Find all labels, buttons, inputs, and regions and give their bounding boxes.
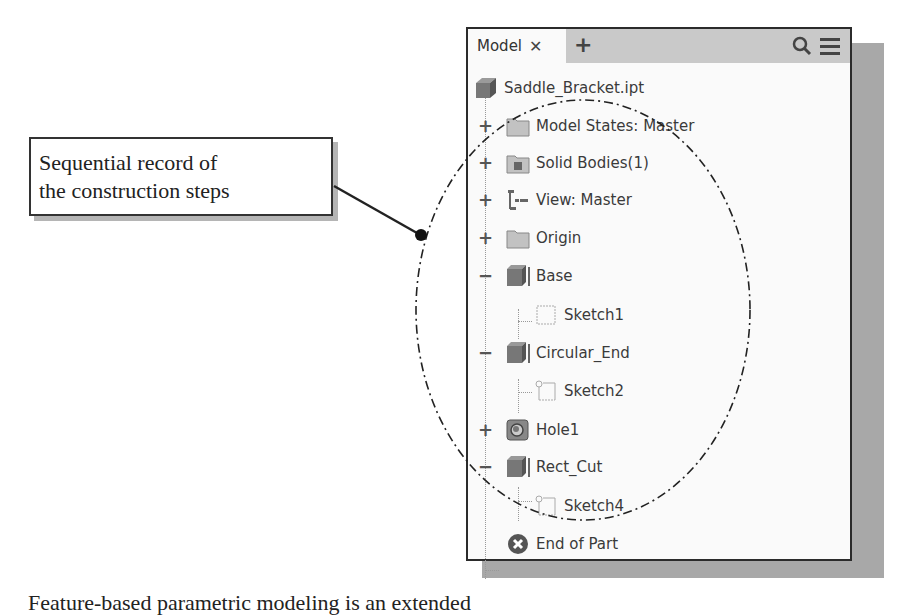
folder-icon (506, 227, 530, 249)
tree-item[interactable]: + Model States: Master (468, 111, 694, 141)
tab-model[interactable]: Model ✕ (468, 29, 566, 63)
tree-item-label: Model States: Master (536, 117, 694, 135)
collapse-icon[interactable]: − (478, 344, 492, 362)
solid-bodies-folder-icon (506, 152, 530, 174)
search-icon[interactable] (792, 36, 812, 56)
tree-item[interactable]: + Hole1 (468, 415, 579, 445)
callout-line-2: the construction steps (39, 177, 331, 205)
model-browser-panel: Model ✕ + Saddle_Bracket.ipt + Model Sta… (466, 27, 852, 561)
tree-item-label: Circular_End (536, 344, 630, 362)
tree-item-label: Solid Bodies(1) (536, 154, 649, 172)
callout-box: Sequential record of the construction st… (29, 137, 333, 216)
expand-icon[interactable]: + (478, 421, 492, 439)
tab-model-label: Model (477, 37, 522, 55)
sketch-icon (534, 380, 558, 402)
close-icon[interactable]: ✕ (529, 37, 542, 56)
hamburger-menu-icon[interactable] (820, 38, 840, 55)
hole-icon (506, 419, 530, 441)
tab-bar: Model ✕ + (468, 29, 850, 63)
tree-item-label: End of Part (536, 535, 618, 553)
part-icon (474, 77, 498, 99)
tree-item[interactable]: − Rect_Cut (468, 452, 602, 482)
tree-item-label: Hole1 (536, 421, 579, 439)
sketch-icon (534, 304, 558, 326)
expand-icon[interactable]: + (478, 154, 492, 172)
tree-item[interactable]: + Origin (468, 223, 581, 253)
tree-item[interactable]: − Circular_End (468, 338, 630, 368)
callout-line-1: Sequential record of (39, 149, 331, 177)
expand-icon[interactable]: + (478, 117, 492, 135)
expand-icon[interactable]: + (478, 191, 492, 209)
tree-item-label: Sketch4 (564, 497, 624, 515)
tree-root-label: Saddle_Bracket.ipt (504, 79, 644, 97)
tree-item[interactable]: Sketch4 (468, 491, 624, 521)
collapse-icon[interactable]: − (478, 267, 492, 285)
extrude-icon (506, 265, 530, 287)
extrude-icon (506, 342, 530, 364)
tree-item-label: View: Master (536, 191, 632, 209)
tree-item-label: Rect_Cut (536, 458, 602, 476)
expand-icon[interactable]: + (478, 229, 492, 247)
tree-item[interactable]: Sketch2 (468, 376, 624, 406)
tree-item[interactable]: − Base (468, 261, 573, 291)
folder-icon (506, 115, 530, 137)
tree-root[interactable]: Saddle_Bracket.ipt (474, 73, 644, 103)
tree-item[interactable]: + View: Master (468, 185, 632, 215)
extrude-icon (506, 456, 530, 478)
tree-item-label: Origin (536, 229, 581, 247)
tree-item[interactable]: Sketch1 (468, 300, 624, 330)
sketch-icon (534, 495, 558, 517)
end-of-part-icon (506, 533, 530, 555)
tree-item-label: Base (536, 267, 573, 285)
plus-icon[interactable]: + (574, 32, 592, 58)
tree-item-label: Sketch2 (564, 382, 624, 400)
collapse-icon[interactable]: − (478, 458, 492, 476)
tree-item[interactable]: End of Part (468, 529, 618, 559)
tree-item[interactable]: + Solid Bodies(1) (468, 148, 649, 178)
caption-partial: Feature-based parametric modeling is an … (28, 590, 471, 616)
view-rep-icon (506, 189, 530, 211)
tree-item-label: Sketch1 (564, 306, 624, 324)
tree-connector (485, 570, 499, 571)
